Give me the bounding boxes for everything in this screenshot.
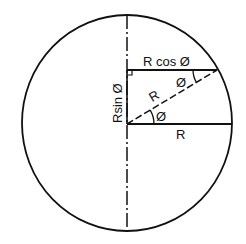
angle-arc-circle — [193, 70, 196, 82]
angle-arc-center — [150, 110, 154, 124]
label-radius-horizontal: R — [176, 127, 185, 142]
label-angle-at-center: Ø — [156, 109, 166, 124]
diagonal-radius-dashed — [127, 70, 217, 124]
circle-trig-diagram: R cos Ø Ø R Ø R Rsin Ø — [0, 0, 246, 244]
label-angle-at-circle: Ø — [176, 75, 186, 90]
label-radius-diagonal: R — [146, 87, 162, 105]
label-r-cos-phi: R cos Ø — [143, 54, 190, 69]
label-r-sin-phi: Rsin Ø — [110, 83, 125, 123]
